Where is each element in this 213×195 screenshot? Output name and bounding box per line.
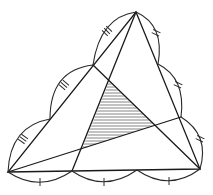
cevian-from-top — [72, 12, 136, 171]
geometry-diagram — [0, 0, 213, 195]
